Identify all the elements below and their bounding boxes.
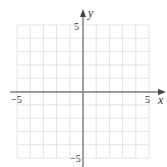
x-axis-label: x [157,93,164,107]
x-tick-neg5: −5 [11,94,22,105]
x-tick-5: 5 [145,94,150,105]
y-tick-neg5: −5 [70,153,81,164]
coordinate-plane: −5 5 5 −5 x y [0,0,167,167]
y-tick-5: 5 [74,21,79,32]
y-axis-arrow-icon [80,9,86,17]
y-axis-label: y [87,6,94,20]
